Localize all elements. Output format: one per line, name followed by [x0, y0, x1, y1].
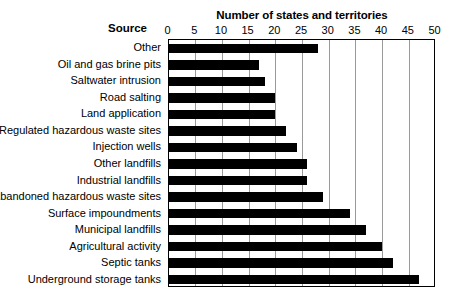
bar-row	[169, 258, 434, 268]
category-label: Regulated hazardous waste sites	[0, 124, 161, 136]
bar-row	[169, 126, 434, 136]
bar-row	[169, 209, 434, 219]
bar	[169, 126, 286, 136]
bar	[169, 93, 276, 103]
category-label: Saltwater intrusion	[71, 74, 162, 86]
category-label: Industrial landfills	[77, 174, 161, 186]
category-labels: OtherOil and gas brine pitsSaltwater int…	[0, 39, 165, 287]
x-tick-label: 0	[164, 24, 170, 37]
bar-row	[169, 93, 434, 103]
x-tick-label: 40	[375, 24, 387, 37]
bar-row	[169, 275, 434, 285]
bar-row	[169, 225, 434, 235]
bar-row	[169, 44, 434, 54]
bar-row	[169, 159, 434, 169]
bars-layer	[169, 40, 434, 286]
bar-row	[169, 110, 434, 120]
bar	[169, 77, 265, 87]
x-tick-label: 10	[215, 24, 227, 37]
bar	[169, 176, 308, 186]
bar-row	[169, 77, 434, 87]
plot-area	[168, 39, 435, 287]
bar-chart: Number of states and territories Source …	[0, 0, 458, 306]
bar	[169, 44, 319, 54]
bar	[169, 258, 393, 268]
x-tick-label: 30	[322, 24, 334, 37]
bar	[169, 275, 420, 285]
category-label: Injection wells	[93, 140, 161, 152]
bar	[169, 209, 351, 219]
x-tick-label: 35	[348, 24, 360, 37]
category-label: Septic tanks	[101, 256, 161, 268]
category-label: Other landfills	[94, 157, 161, 169]
category-label: Agricultural activity	[69, 240, 161, 252]
bar-row	[169, 192, 434, 202]
bar-row	[169, 60, 434, 70]
x-tick-label: 15	[241, 24, 253, 37]
bar	[169, 60, 260, 70]
bar	[169, 192, 324, 202]
x-tick-label: 45	[402, 24, 414, 37]
bar-row	[169, 242, 434, 252]
x-axis-tick-labels: 05101520253035404550	[0, 24, 458, 38]
bar	[169, 110, 276, 120]
bar	[169, 225, 367, 235]
chart-title: Number of states and territories	[168, 9, 436, 21]
x-tick-label: 5	[191, 24, 197, 37]
x-tick-label: 25	[295, 24, 307, 37]
category-label: Municipal landfills	[75, 223, 161, 235]
bar	[169, 143, 297, 153]
category-label: Abandoned hazardous waste sites	[0, 190, 161, 202]
category-label: Land application	[81, 107, 161, 119]
x-tick-label: 20	[268, 24, 280, 37]
category-label: Road salting	[100, 91, 161, 103]
bar-row	[169, 176, 434, 186]
category-label: Other	[133, 41, 161, 53]
bar	[169, 242, 383, 252]
category-label: Surface impoundments	[48, 207, 161, 219]
x-tick-label: 50	[428, 24, 440, 37]
category-label: Oil and gas brine pits	[58, 58, 161, 70]
category-label: Underground storage tanks	[28, 273, 161, 285]
bar	[169, 159, 308, 169]
bar-row	[169, 143, 434, 153]
